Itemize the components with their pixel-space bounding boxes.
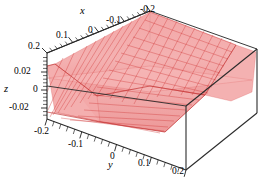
x-tick-label-0: 0.2 [28, 42, 40, 52]
y-tick-label-0: -0.2 [34, 127, 49, 137]
plot-canvas [0, 0, 264, 180]
z-axis-minor-ticks [43, 58, 47, 116]
z-axis-ticks [41, 72, 47, 108]
x-axis-title: x [80, 6, 85, 17]
x-tick-label-2: 0 [88, 26, 93, 36]
y-tick-label-4: 0.2 [172, 167, 184, 177]
x-tick-label-3: -0.1 [106, 16, 121, 26]
z-tick-label-2: -0.02 [9, 103, 29, 113]
y-tick-label-1: -0.1 [68, 140, 83, 150]
y-axis-title: y [108, 160, 113, 171]
y-tick-label-3: 0.1 [138, 159, 150, 169]
z-axis-title: z [4, 84, 8, 95]
surface-plot-figure: x 0.2 0.1 0 -0.1 -0.2 y -0.2 -0.1 0 0.1 … [0, 0, 264, 180]
surface-mesh [47, 12, 256, 133]
x-tick-label-4: -0.2 [140, 5, 155, 15]
z-tick-label-1: 0 [33, 85, 38, 95]
y-tick-label-2: 0 [110, 152, 115, 162]
z-tick-label-0: 0.02 [14, 67, 31, 77]
x-tick-label-1: 0.1 [56, 31, 68, 41]
